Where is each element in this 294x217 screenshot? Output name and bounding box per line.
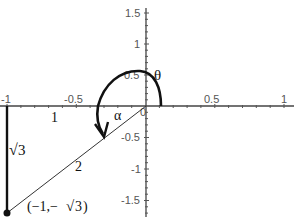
y-tick-label: -1 (131, 163, 141, 175)
x-tick-label: 0.5 (204, 93, 219, 105)
theta-label: θ (154, 67, 161, 83)
radical-icon: √ (9, 141, 18, 158)
unit-circle-diagram: -1 -0.5 0.5 1 (0, 0, 294, 217)
point-marker (4, 210, 11, 217)
x-tick-label: -1 (1, 93, 11, 105)
radical-icon: √ (66, 198, 75, 214)
hypotenuse-label: 2 (75, 159, 82, 174)
x-axis: -1 -0.5 0.5 1 (0, 93, 294, 108)
point-label-close: ) (83, 199, 88, 215)
y-tick-label: 1.5 (125, 7, 140, 19)
opposite-side-label: √ 3 (9, 141, 26, 158)
opposite-value: 3 (18, 142, 26, 158)
point-label: (−1,− √ 3 ) (27, 198, 88, 215)
y-axis: 1.5 1 0.5 0 -0.5 -1 -1.5 (121, 7, 149, 217)
alpha-label: α (114, 108, 122, 123)
point-label-open: (−1,− (27, 199, 58, 215)
adjacent-side-label: 1 (51, 110, 58, 125)
y-tick-label: -1.5 (121, 194, 140, 206)
y-tick-label: -0.5 (121, 131, 140, 143)
x-tick-label: -0.5 (64, 93, 83, 105)
x-tick-label: 1 (281, 93, 287, 105)
y-tick-label: 1 (134, 38, 140, 50)
point-label-value: 3 (75, 199, 82, 214)
